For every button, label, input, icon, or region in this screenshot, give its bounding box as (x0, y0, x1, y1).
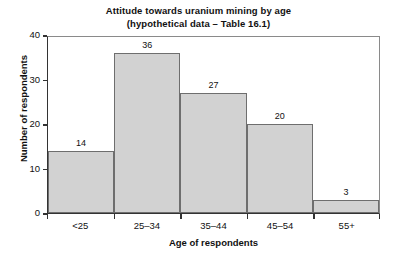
chart-title-line-2: (hypothetical data – Table 16.1) (0, 17, 397, 30)
y-axis-tick-label: 10 (29, 163, 40, 174)
bar-value-label: 3 (314, 187, 378, 197)
x-axis-tick-label: <25 (47, 220, 114, 231)
chart-title-line-1: Attitude towards uranium mining by age (0, 4, 397, 17)
bar[interactable]: 14 (48, 151, 114, 213)
x-axis-tick-mark (47, 214, 48, 219)
bar-series: 143627203 (48, 37, 379, 213)
x-axis-tick-marks (47, 214, 380, 219)
bar-slot: 3 (313, 37, 379, 213)
y-axis-tick-label: 0 (35, 207, 40, 218)
bar-slot: 36 (114, 37, 180, 213)
x-axis-tick-label: 45–54 (247, 220, 314, 231)
x-axis-tick-labels: <2525–3435–4445–5455+ (47, 220, 380, 231)
plot-area: 143627203 (47, 36, 380, 214)
histogram-figure: Attitude towards uranium mining by age (… (0, 0, 397, 259)
bar[interactable]: 3 (313, 200, 379, 213)
y-axis-tick-label: 40 (29, 29, 40, 40)
x-axis: <2525–3435–4445–5455+ Age of respondents (47, 214, 380, 259)
bar-value-label: 20 (248, 111, 312, 121)
x-axis-tick-label: 35–44 (180, 220, 247, 231)
y-axis-tick-label: 30 (29, 74, 40, 85)
x-axis-tick-label: 55+ (313, 220, 380, 231)
x-axis-tick-label: 25–34 (114, 220, 181, 231)
y-axis-tick-label: 20 (29, 118, 40, 129)
bar[interactable]: 20 (247, 124, 313, 213)
bar-value-label: 14 (49, 138, 113, 148)
x-axis-tick-mark (114, 214, 115, 219)
bar-slot: 14 (48, 37, 114, 213)
x-axis-tick-mark (379, 214, 380, 219)
x-axis-tick-mark (313, 214, 314, 219)
bar-slot: 20 (247, 37, 313, 213)
y-axis-title: Number of respondents (18, 29, 29, 189)
bar-slot: 27 (180, 37, 246, 213)
bar-value-label: 27 (181, 80, 245, 90)
bar[interactable]: 27 (180, 93, 246, 213)
bar[interactable]: 36 (114, 53, 180, 213)
chart-title: Attitude towards uranium mining by age (… (0, 4, 397, 30)
bar-value-label: 36 (115, 40, 179, 50)
x-axis-tick-mark (180, 214, 181, 219)
x-axis-tick-mark (247, 214, 248, 219)
x-axis-title: Age of respondents (47, 237, 380, 248)
